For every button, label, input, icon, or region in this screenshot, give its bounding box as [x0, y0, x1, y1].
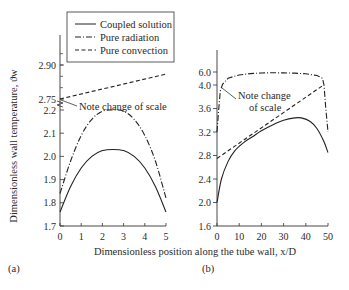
series-coupled-solution-a: [60, 149, 166, 212]
y-tick-label-a: 2.0: [44, 151, 57, 162]
y-tick-label-b: 4.0: [199, 80, 212, 91]
y-tick-label-a: 1.9: [44, 174, 57, 185]
series-pure-radiation-a: [60, 110, 166, 198]
x-tick-label-b: 0: [215, 231, 220, 242]
y-tick-label-b: 6.0: [199, 67, 212, 78]
x-tick-label-b: 50: [323, 231, 333, 242]
y-tick-label-b: 2.0: [199, 197, 212, 208]
x-axis-label: Dimensionless position along the tube wa…: [94, 246, 297, 257]
y-tick-label-a: 2.75: [39, 94, 57, 105]
y-tick-label-a: 2.90: [39, 60, 57, 71]
panel-a: 0123451.71.81.92.02.12.22.752.90Note cha…: [39, 35, 169, 242]
legend-label-convection: Pure convection: [100, 45, 169, 56]
x-tick-label-a: 0: [58, 231, 63, 242]
y-tick-label-b: 2.8: [199, 150, 212, 161]
x-tick-label-a: 5: [164, 231, 169, 242]
panel-label-a: (a): [8, 263, 20, 275]
series-coupled-solution-b: [217, 118, 328, 203]
annotation-b-line: Note change: [238, 90, 291, 101]
legend: Coupled solution Pure radiation Pure con…: [67, 12, 174, 62]
x-tick-label-a: 1: [79, 231, 84, 242]
annotation-a: Note change of scale: [79, 101, 167, 112]
y-tick-label-a: 1.8: [44, 197, 57, 208]
legend-label-radiation: Pure radiation: [100, 32, 160, 43]
x-tick-label-b: 10: [234, 231, 244, 242]
annotation-b-line: of scale: [249, 102, 282, 113]
x-tick-label-a: 4: [142, 231, 147, 242]
y-tick-label-b: 3.2: [199, 127, 212, 138]
annotation-leader-b: [222, 88, 236, 99]
y-tick-label-a: 2.1: [44, 128, 57, 139]
y-tick-label-b: 1.6: [199, 221, 212, 232]
panel-label-b: (b): [202, 263, 215, 275]
figure: Coupled solution Pure radiation Pure con…: [0, 0, 349, 290]
y-tick-label-b: 2.4: [199, 174, 212, 185]
y-tick-label-a: 1.7: [44, 221, 57, 232]
y-axis-label: Dimensionless wall temperature, ϑw: [8, 69, 19, 223]
y-tick-label-b: 3.6: [199, 103, 212, 114]
panel-b: 010203040501.62.02.42.83.23.64.06.0Note …: [199, 50, 334, 242]
axis-break-a: [57, 101, 63, 107]
y-tick-label-a: 2.2: [44, 105, 57, 116]
x-tick-label-b: 20: [256, 231, 266, 242]
x-tick-label-a: 2: [100, 231, 105, 242]
x-tick-label-a: 3: [121, 231, 126, 242]
legend-label-coupled: Coupled solution: [100, 19, 173, 30]
x-tick-label-b: 40: [301, 231, 311, 242]
series-pure-convection-a: [60, 74, 166, 99]
x-tick-label-b: 30: [279, 231, 289, 242]
